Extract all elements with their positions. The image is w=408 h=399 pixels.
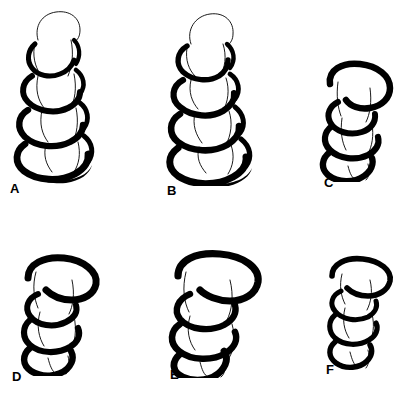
panel-a-helix-diagram xyxy=(8,4,124,184)
panel-b: B xyxy=(163,4,279,186)
panel-d: D xyxy=(12,250,116,376)
panel-label-e: E xyxy=(170,368,179,381)
helix-ribbon-b xyxy=(170,14,252,186)
panel-d-helix-diagram xyxy=(12,250,116,376)
panel-e: E xyxy=(158,246,280,378)
panel-label-f: F xyxy=(326,363,334,376)
panel-f-helix-diagram xyxy=(318,250,404,372)
panel-label-d: D xyxy=(12,370,21,383)
helix-ribbon-f xyxy=(330,259,390,368)
panel-label-c: C xyxy=(324,176,333,189)
panel-f: F xyxy=(318,250,404,372)
panel-e-helix-diagram xyxy=(158,246,280,378)
helix-ribbon-a xyxy=(17,12,92,184)
panel-label-a: A xyxy=(10,182,19,195)
panel-c-helix-diagram xyxy=(308,56,406,182)
panel-label-b: B xyxy=(167,184,176,197)
helix-ribbon-c xyxy=(323,64,390,181)
panel-a: A xyxy=(8,4,124,184)
figure-canvas: A xyxy=(0,0,408,399)
panel-b-helix-diagram xyxy=(163,4,279,186)
panel-c: C xyxy=(308,56,406,182)
helix-ribbon-e xyxy=(172,254,258,378)
helix-ribbon-d xyxy=(24,258,96,376)
